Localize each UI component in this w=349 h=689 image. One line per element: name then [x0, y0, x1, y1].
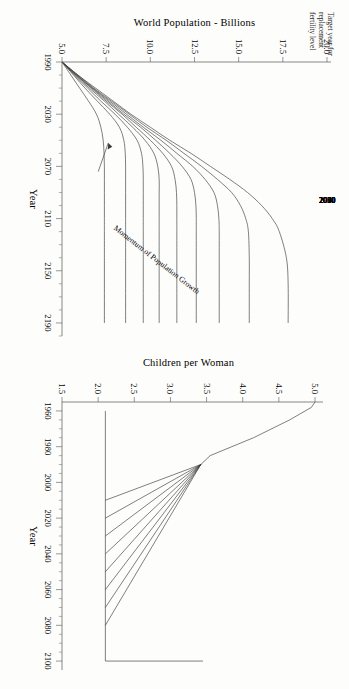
fertility-path-2080	[105, 465, 200, 626]
world-population-chart: 5.07.510.012.515.017.520.019902030207021…	[0, 0, 349, 349]
svg-text:2080: 2080	[43, 617, 53, 634]
children-per-woman-axes: 1.52.02.53.03.54.04.55.01960198020002020…	[28, 357, 323, 670]
world-population-curve-labels: 208020702060205020402030202020101991	[104, 196, 335, 232]
svg-text:2030: 2030	[43, 106, 53, 123]
population-curve-2010	[62, 62, 126, 323]
svg-text:2190: 2190	[43, 314, 53, 331]
fertility-path-2060	[105, 465, 200, 590]
population-curve-2040	[62, 62, 177, 323]
population-curve-2070	[62, 62, 249, 323]
svg-text:17.5: 17.5	[278, 39, 288, 54]
figure-canvas: 5.07.510.012.515.017.520.019902030207021…	[0, 0, 349, 689]
legend-title-line-2: replacement	[317, 12, 326, 56]
svg-text:5.0: 5.0	[57, 43, 67, 54]
svg-text:12.5: 12.5	[190, 39, 200, 54]
svg-text:2020: 2020	[43, 510, 53, 527]
svg-text:4.0: 4.0	[238, 383, 248, 394]
svg-text:2.5: 2.5	[129, 383, 139, 394]
world-population-annotation: Momentum of Population Growth	[98, 143, 201, 296]
children-per-woman-chart: 1.52.02.53.03.54.04.55.01960198020002020…	[0, 340, 349, 689]
svg-text:3.5: 3.5	[202, 383, 212, 394]
children-per-woman-plot-area: 1.52.02.53.03.54.04.55.01960198020002020…	[0, 340, 349, 689]
fertility-path-2070	[105, 465, 200, 608]
svg-text:5.0: 5.0	[310, 383, 320, 394]
children-per-woman-svg: 1.52.02.53.03.54.04.55.01960198020002020…	[0, 340, 349, 689]
fertility-path-2050	[105, 465, 200, 572]
svg-text:Children per Woman: Children per Woman	[143, 357, 235, 368]
annotation-arrow	[98, 143, 108, 172]
svg-text:4.5: 4.5	[274, 383, 284, 394]
svg-text:1980: 1980	[43, 438, 53, 455]
children-per-woman-curves	[105, 402, 315, 661]
svg-text:1960: 1960	[43, 402, 53, 419]
svg-text:15.0: 15.0	[234, 39, 244, 54]
svg-text:Year: Year	[28, 189, 39, 209]
svg-text:10.0: 10.0	[145, 39, 155, 54]
population-curve-2030	[62, 62, 159, 323]
world-population-curves	[62, 62, 288, 323]
population-curve-2080	[62, 62, 288, 323]
fertility-path-2030	[105, 465, 200, 536]
svg-text:7.5: 7.5	[101, 43, 111, 54]
world-population-plot-area: 5.07.510.012.515.017.520.019902030207021…	[0, 0, 349, 349]
world-population-axes: 5.07.510.012.515.017.520.019902030207021…	[28, 17, 332, 336]
legend-title-line-3: fertility level	[308, 12, 317, 56]
fertility-path-2040	[105, 465, 200, 554]
legend-title-line-1: Target year for	[326, 12, 335, 56]
svg-text:2070: 2070	[43, 158, 53, 175]
svg-text:1990: 1990	[43, 53, 53, 70]
world-population-svg: 5.07.510.012.515.017.520.019902030207021…	[0, 0, 349, 349]
population-curve-1991	[62, 62, 104, 323]
historical-fertility-curve	[201, 402, 315, 465]
legend-title: Target year for replacement fertility le…	[308, 12, 335, 56]
svg-text:2040: 2040	[43, 545, 53, 562]
population-curve-2020	[62, 62, 143, 323]
svg-text:2150: 2150	[43, 262, 53, 279]
svg-text:3.0: 3.0	[165, 383, 175, 394]
fertility-path-2020	[105, 465, 200, 519]
curve-label-1991: 1991	[319, 196, 335, 205]
svg-text:Year: Year	[28, 526, 39, 546]
svg-text:2.0: 2.0	[93, 383, 103, 394]
svg-text:2060: 2060	[43, 581, 53, 598]
svg-text:2110: 2110	[43, 210, 53, 227]
population-curve-2050	[62, 62, 196, 323]
svg-text:2000: 2000	[43, 474, 53, 491]
svg-text:1.5: 1.5	[57, 383, 67, 394]
fertility-path-2010	[105, 465, 200, 501]
svg-text:2100: 2100	[43, 652, 53, 669]
svg-text:World Population - Billions: World Population - Billions	[134, 17, 256, 28]
